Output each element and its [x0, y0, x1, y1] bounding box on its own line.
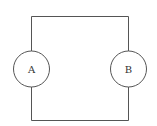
circuit-diagram: A B	[0, 0, 157, 126]
component-b: B	[111, 51, 147, 87]
top-wire	[32, 17, 129, 52]
component-b-label: B	[125, 64, 132, 75]
component-a-label: A	[27, 64, 36, 75]
bottom-wire	[32, 87, 129, 121]
component-a: A	[14, 51, 50, 87]
